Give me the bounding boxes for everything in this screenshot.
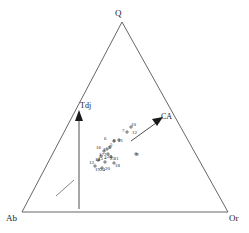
vertex-label-ab: Ab [6, 213, 17, 223]
ternary-plot-canvas [0, 0, 249, 233]
sample-point-label: 15 [98, 156, 103, 161]
sample-point-label: 9 [136, 152, 139, 157]
trend-label-tdj: Tdj [80, 101, 91, 110]
tdj-trend-arrow [75, 110, 83, 209]
sample-point-label: 16 [96, 145, 101, 150]
sample-point-label: 3 [108, 145, 111, 150]
ca-trend-arrow [131, 117, 163, 141]
sample-point-label: 21 [118, 138, 123, 143]
sample-point-label: 7 [122, 128, 125, 133]
ternary-triangle-outline [22, 22, 228, 212]
sample-point-label: 10 [131, 122, 136, 127]
sample-point-label: 13 [89, 160, 94, 165]
vertex-label-q: Q [115, 8, 122, 18]
sample-point-label: 6 [104, 136, 107, 141]
tdj-baseline-tick [56, 180, 74, 196]
sample-point-label: 12 [132, 130, 137, 135]
sample-point-label: 24 [100, 167, 105, 172]
sample-point-label: 18 [115, 163, 120, 168]
trend-label-ca: CA [161, 112, 172, 121]
sample-point-label: 8 [113, 138, 116, 143]
sample-point-label: 20 [105, 166, 110, 171]
sample-point-label: 11 [114, 156, 119, 161]
vertex-label-or: Or [229, 213, 239, 223]
ternary-diagram-figure: Q Ab Or Tdj CA 1071282165316121742223111… [0, 0, 249, 233]
